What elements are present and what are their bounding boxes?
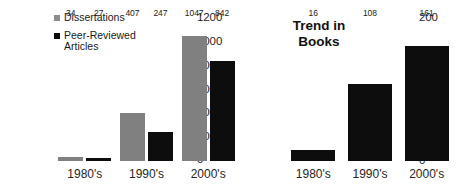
bar-rect [148,132,173,161]
bar-books-1990s: 108 [348,18,392,161]
bar-value-label: 247 [153,9,167,18]
bar-group-1990s: 407 247 [116,18,176,161]
bar-articles-2000s: 842 [210,18,235,161]
plot-area: 16 108 161 [285,18,455,161]
x-tick-label-1980s: 1980's [54,168,116,180]
bar-value-label: 407 [125,9,139,18]
x-axis-left: 1980's 1990's 2000's [54,168,239,180]
bar-value-label: 108 [363,9,377,18]
x-axis-right: 1980's 1990's 2000's [285,168,455,180]
bar-value-label: 842 [215,9,229,18]
chart-figure: 1200 1000 800 600 400 200 0 Dissertation… [0,0,457,191]
bar-value-label: 16 [309,9,318,18]
bar-rect [291,150,335,161]
bar-dissertations-1990s: 407 [120,18,145,161]
bar-group-1990s: 108 [344,18,396,161]
bar-rect [120,113,145,162]
bar-dissertations-2000s: 1047 [182,18,207,161]
chart-dissertations-vs-articles: 1200 1000 800 600 400 200 0 Dissertation… [0,0,243,191]
bar-books-1980s: 16 [291,18,335,161]
bar-value-label: 27 [94,9,103,18]
x-tick-label-1990s: 1990's [116,168,178,180]
x-tick-label-2000s: 2000's [177,168,239,180]
bar-rect [58,157,83,161]
bar-value-label: 34 [66,9,75,18]
bar-group-2000s: 1047 842 [178,18,238,161]
x-tick-label-1980s: 1980's [285,168,342,180]
bar-rect [86,158,111,161]
bar-value-label: 161 [420,9,434,18]
bar-rect [348,84,392,161]
bar-rect [405,46,449,161]
bar-group-1980s: 16 [287,18,339,161]
bar-books-2000s: 161 [405,18,449,161]
chart-trend-in-books: 200 150 100 50 0 Trend in Books 16 108 [243,0,457,191]
plot-area: 34 27 407 247 [54,18,239,161]
x-tick-label-2000s: 2000's [398,168,455,180]
x-tick-label-1990s: 1990's [342,168,399,180]
bar-rect [182,36,207,161]
bar-group-1980s: 34 27 [55,18,115,161]
bar-group-2000s: 161 [401,18,453,161]
bar-value-label: 1047 [185,9,204,18]
bar-articles-1990s: 247 [148,18,173,161]
bar-dissertations-1980s: 34 [58,18,83,161]
bar-rect [210,61,235,161]
bar-articles-1980s: 27 [86,18,111,161]
